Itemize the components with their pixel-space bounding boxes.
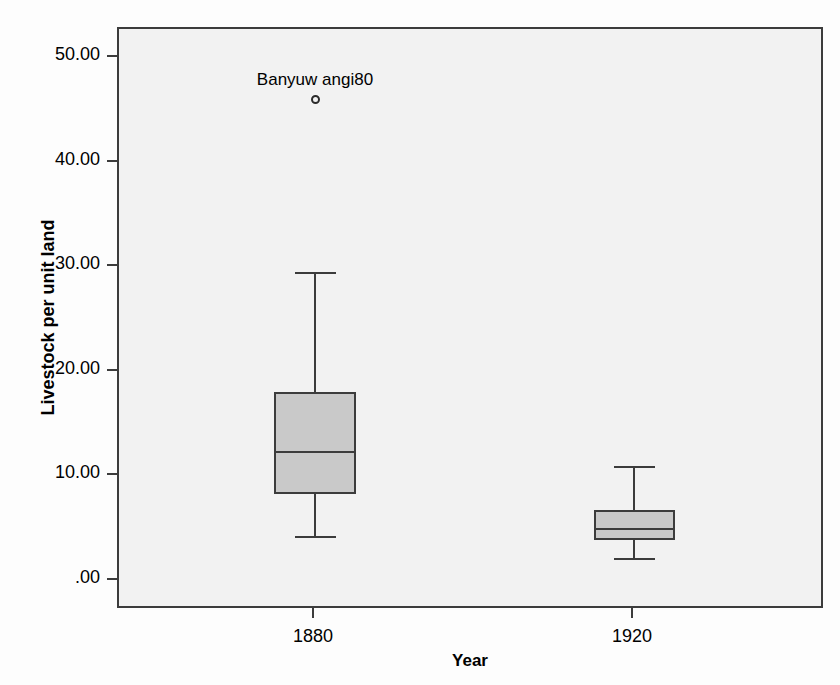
y-axis-tick	[107, 55, 117, 57]
y-axis-tick-label: 30.00	[0, 253, 100, 275]
lower-whisker-cap	[614, 558, 655, 560]
x-axis-title: Year	[117, 651, 823, 671]
y-axis-tick	[107, 369, 117, 371]
y-axis-tick-label: 40.00	[0, 149, 100, 171]
boxplot-chart: Livestock per unit land 50.0040.0030.002…	[0, 0, 840, 685]
y-axis-tick-label: 20.00	[0, 358, 100, 380]
y-axis-tick	[107, 473, 117, 475]
y-axis-tick	[107, 578, 117, 580]
x-axis-tick	[312, 608, 314, 618]
y-axis-tick-label-text: 20.00	[0, 358, 100, 379]
y-axis-tick	[107, 264, 117, 266]
y-axis-tick-label-text: 30.00	[0, 253, 100, 274]
x-axis-tick	[631, 608, 633, 618]
x-axis-tick-label: 1880	[233, 626, 393, 647]
box-plot-1920[interactable]	[119, 29, 821, 606]
median-line	[594, 528, 675, 530]
y-axis-tick-label-text: .00	[0, 567, 100, 588]
box-iqr[interactable]	[594, 510, 675, 540]
upper-whisker-line	[633, 466, 635, 510]
y-axis-tick-label: .00	[0, 567, 100, 589]
plot-area: Banyuw angi80	[117, 27, 823, 608]
y-axis-tick-label: 10.00	[0, 462, 100, 484]
x-axis-tick-label: 1920	[552, 626, 712, 647]
y-axis-tick-label-text: 40.00	[0, 149, 100, 170]
y-axis-tick	[107, 160, 117, 162]
y-axis-tick-label-text: 50.00	[0, 44, 100, 65]
y-axis-title: Livestock per unit land	[36, 27, 60, 608]
lower-whisker-line	[633, 540, 635, 558]
y-axis-tick-label: 50.00	[0, 44, 100, 66]
upper-whisker-cap	[614, 466, 655, 468]
y-axis-tick-label-text: 10.00	[0, 462, 100, 483]
